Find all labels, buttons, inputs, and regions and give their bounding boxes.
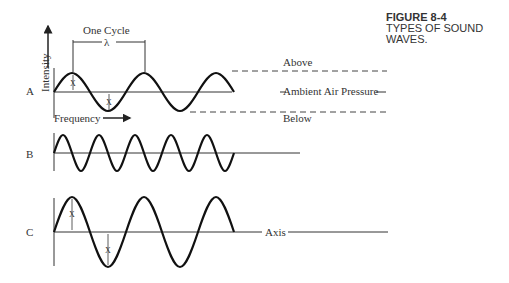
wave-c-group: C Axis X X	[26, 197, 388, 267]
wave-c-label: C	[26, 226, 33, 238]
intensity-label: Intensity	[39, 53, 51, 92]
one-cycle-label: One Cycle	[83, 24, 130, 36]
amplitude-marker-a-top: X	[70, 79, 76, 88]
amplitude-marker-a-bottom: X	[106, 98, 112, 107]
below-label: Below	[283, 112, 312, 124]
ambient-pressure-label: Ambient Air Pressure	[283, 85, 378, 97]
axis-label: Axis	[265, 226, 286, 238]
sound-waves-diagram: A Intensity One Cycle λ X X Frequency Ab…	[0, 0, 509, 283]
wave-a-group: A Intensity One Cycle λ X X Frequency Ab…	[26, 24, 387, 124]
amplitude-marker-c-bottom: X	[105, 246, 111, 255]
frequency-label: Frequency	[54, 112, 101, 124]
above-label: Above	[283, 56, 312, 68]
wave-b-label: B	[26, 148, 33, 160]
wavelength-symbol: λ	[104, 36, 110, 48]
wave-b-group: B	[26, 133, 300, 171]
wave-a-label: A	[26, 85, 34, 97]
amplitude-marker-c-top: X	[69, 210, 75, 219]
